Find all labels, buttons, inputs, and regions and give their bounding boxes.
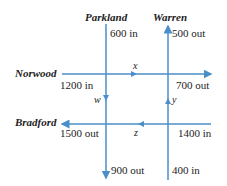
warren-label: Warren [153, 12, 187, 23]
warren-top-flow: 500 out [172, 28, 205, 39]
parkland-label: Parkland [85, 12, 127, 23]
norwood-label: Norwood [15, 68, 57, 79]
x-arrow-icon [131, 71, 137, 77]
parkland-bottom-flow: 900 out [111, 165, 144, 176]
variable-w: w [94, 95, 101, 105]
variable-x: x [133, 61, 137, 71]
w-arrow-icon [103, 95, 109, 101]
variable-z: z [134, 128, 138, 138]
bradford-right-flow: 1400 in [178, 128, 211, 139]
bradford-label: Bradford [15, 117, 57, 128]
parkland-top-flow: 600 in [110, 28, 138, 39]
warren-bottom-flow: 400 in [172, 165, 200, 176]
norwood-right-flow: 700 out [176, 80, 209, 91]
norwood-left-flow: 1200 in [60, 80, 93, 91]
variable-y: y [172, 95, 176, 105]
z-arrow-icon [138, 121, 144, 127]
bradford-left-flow: 1500 out [60, 128, 99, 139]
y-arrow-icon [165, 98, 171, 104]
